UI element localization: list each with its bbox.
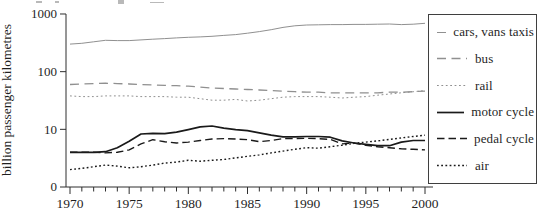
- legend-item-rail: rail: [436, 78, 534, 94]
- legend-box: cars, vans taxis bus rail motor cycle pe…: [428, 14, 537, 184]
- x-tick-label: 1990: [293, 196, 320, 211]
- y-tick-label: 10: [44, 122, 57, 137]
- x-tick-label: 1985: [234, 196, 261, 211]
- legend-line-cars-vans-taxis: [436, 29, 446, 36]
- x-tick-label: 2000: [412, 196, 439, 211]
- x-tick-label: 1980: [175, 196, 202, 211]
- x-tick-label: 1995: [352, 196, 379, 211]
- y-tick-label: 0: [51, 179, 58, 194]
- legend-label-rail: rail: [475, 78, 493, 94]
- legend-item-bus: bus: [436, 51, 534, 67]
- y-axis-title: billion passenger kilometres: [0, 24, 14, 176]
- legend-label-bus: bus: [475, 51, 493, 67]
- transport-line-chart-figure: 10001001001970197519801985199019952000bi…: [0, 0, 544, 220]
- series-line-air: [70, 135, 425, 169]
- legend-line-rail: [436, 82, 468, 89]
- series-line-bus: [70, 83, 425, 93]
- legend-line-bus: [436, 55, 468, 62]
- series-line-rail: [70, 91, 425, 101]
- legend-line-motor-cycle: [436, 109, 464, 116]
- legend-item-pedal-cycle: pedal cycle: [436, 131, 534, 147]
- legend-label-air: air: [475, 158, 489, 174]
- series-line-pedal-cycle: [70, 138, 425, 153]
- series-line-cars-vans-taxis: [70, 23, 425, 44]
- legend-line-pedal-cycle: [436, 135, 467, 142]
- y-tick-label: 1000: [31, 6, 57, 21]
- legend-line-air: [436, 162, 468, 169]
- y-tick-label: 100: [38, 64, 58, 79]
- x-tick-label: 1970: [57, 196, 84, 211]
- legend-item-motor-cycle: motor cycle: [436, 104, 534, 120]
- legend-label-pedal-cycle: pedal cycle: [474, 131, 534, 147]
- legend-item-air: air: [436, 158, 534, 174]
- series-line-motor-cycle: [70, 126, 425, 152]
- legend-label-motor-cycle: motor cycle: [471, 104, 534, 120]
- legend-label-cars-vans-taxis: cars, vans taxis: [453, 24, 534, 40]
- legend-item-cars-vans-taxis: cars, vans taxis: [436, 24, 534, 40]
- x-tick-label: 1975: [116, 196, 143, 211]
